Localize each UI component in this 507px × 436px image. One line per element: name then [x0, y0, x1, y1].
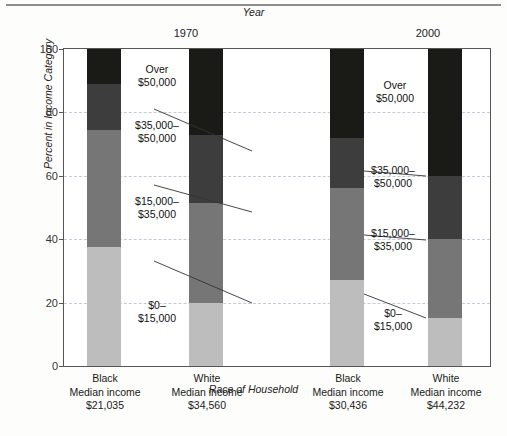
y-tick-mark-20: [59, 303, 64, 304]
annotation-0-15k-1970: $0– $15,000: [122, 299, 192, 325]
y-tick-label-40: 40: [46, 233, 58, 245]
group-label-2000: 2000: [368, 27, 488, 39]
annotation-over-50k-1970: Over $50,000: [122, 63, 192, 89]
bar-segment-0-2: [87, 84, 121, 130]
annotation-35-50k-2000: $35,000– $50,000: [358, 164, 428, 190]
bar-segment-0-0: [87, 247, 121, 366]
y-tick-label-0: 0: [52, 360, 58, 372]
bar-segment-3-2: [428, 176, 462, 239]
y-tick-mark-0: [59, 366, 64, 367]
bar-segment-3-3: [428, 49, 462, 176]
bar-segment-1-3: [189, 49, 223, 135]
y-tick-label-60: 60: [46, 170, 58, 182]
y-tick-label-100: 100: [40, 43, 58, 55]
annotation-35-50k-1970: $35,000– $50,000: [122, 119, 192, 145]
bar-segment-2-3: [330, 49, 364, 138]
chart-figure: Year Percent in Income Category 10080604…: [0, 0, 507, 436]
plot-area: Percent in Income Category 100806040200O…: [63, 48, 491, 367]
y-tick-label-20: 20: [46, 297, 58, 309]
y-tick-label-80: 80: [46, 106, 58, 118]
top-axis-title: Year: [0, 6, 507, 18]
annotation-15-35k-2000: $15,000– $35,000: [358, 227, 428, 253]
bar-segment-3-1: [428, 239, 462, 318]
y-tick-mark-40: [59, 239, 64, 240]
bar-segment-1-2: [189, 135, 223, 203]
bar-segment-1-1: [189, 203, 223, 303]
group-label-1970: 1970: [126, 27, 246, 39]
bar-3: [428, 49, 462, 366]
bar-segment-0-1: [87, 130, 121, 247]
bar-0: [87, 49, 121, 366]
x-axis-title: Race of Household: [0, 383, 507, 395]
plot-inner: 100806040200Over $50,000$35,000– $50,000…: [64, 49, 490, 366]
bar-1: [189, 49, 223, 366]
x-tick-median-value-3: $44,232: [381, 399, 507, 413]
y-tick-mark-60: [59, 176, 64, 177]
bar-segment-1-0: [189, 303, 223, 366]
y-axis-title: Percent in Income Category: [42, 0, 54, 169]
y-tick-mark-100: [59, 49, 64, 50]
annotation-0-15k-2000: $0– $15,000: [358, 307, 428, 333]
bar-segment-0-3: [87, 49, 121, 84]
annotation-15-35k-1970: $15,000– $35,000: [122, 195, 192, 221]
annotation-over-50k-2000: Over $50,000: [360, 79, 430, 105]
bar-segment-3-0: [428, 318, 462, 366]
gridline-80: [64, 112, 490, 114]
y-tick-mark-80: [59, 112, 64, 113]
x-tick-median-value-1: $34,560: [142, 399, 272, 413]
